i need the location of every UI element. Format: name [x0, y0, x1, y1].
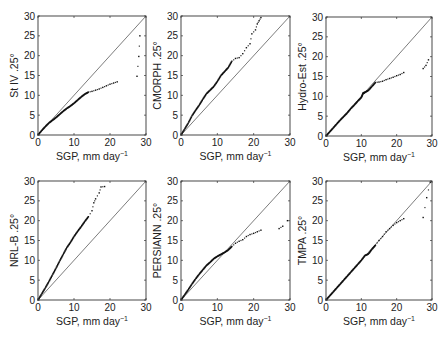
x-axis-label: SGP, mm day−1 — [200, 315, 272, 327]
x-axis-label: SGP, mm day−1 — [56, 150, 128, 162]
x-tick-label: 30 — [284, 137, 296, 148]
one-to-one-line — [181, 181, 290, 300]
one-to-one-line — [181, 16, 290, 135]
y-tick-label: 30 — [167, 176, 179, 187]
x-axis-label: SGP, mm day−1 — [343, 151, 415, 163]
one-to-one-line — [38, 181, 146, 300]
x-tick-label: 0 — [35, 137, 41, 148]
y-tick-label: 20 — [24, 215, 36, 226]
x-tick-label: 30 — [140, 302, 152, 313]
y-tick-label: 30 — [312, 176, 324, 187]
x-axis-label: SGP, mm day−1 — [200, 150, 272, 162]
scatter-points — [180, 220, 288, 301]
scatter-points — [325, 59, 429, 137]
y-tick-label: 5 — [172, 110, 178, 121]
y-tick-label: 25 — [24, 195, 36, 206]
y-tick-label: 15 — [24, 235, 36, 246]
panel-1: 0102030051015202530SGP, mm day−1St IV .2… — [8, 11, 152, 163]
y-axis-label: CMORPH .25° — [151, 41, 163, 109]
panel-5: 0102030051015202530SGP, mm day−1PERSIANN… — [151, 176, 296, 328]
y-tick-label: 10 — [24, 90, 36, 101]
figure-canvas: 0102030051015202530SGP, mm day−1St IV .2… — [0, 0, 447, 338]
x-tick-label: 20 — [391, 138, 403, 149]
y-axis-label: Hydro-Est .25° — [296, 42, 308, 110]
y-tick-label: 25 — [24, 30, 36, 41]
x-tick-label: 10 — [68, 302, 80, 313]
y-tick-label: 15 — [312, 235, 324, 246]
y-tick-label: 10 — [312, 91, 324, 102]
x-tick-label: 30 — [284, 302, 296, 313]
y-tick-label: 15 — [167, 70, 179, 81]
y-tick-label: 0 — [317, 295, 323, 306]
y-tick-label: 30 — [312, 12, 324, 23]
y-tick-label: 20 — [167, 50, 179, 61]
y-tick-label: 10 — [24, 255, 36, 266]
y-tick-label: 20 — [167, 215, 179, 226]
y-tick-label: 0 — [29, 295, 35, 306]
scatter-points — [37, 186, 105, 301]
x-tick-label: 20 — [248, 302, 260, 313]
y-tick-label: 5 — [29, 110, 35, 121]
y-tick-label: 20 — [24, 50, 36, 61]
y-tick-label: 5 — [29, 275, 35, 286]
panel-2: 0102030051015202530SGP, mm day−1CMORPH .… — [151, 11, 296, 163]
x-tick-label: 10 — [356, 302, 368, 313]
y-tick-label: 10 — [167, 90, 179, 101]
y-tick-label: 25 — [312, 195, 324, 206]
y-tick-label: 25 — [167, 195, 179, 206]
scatter-points — [37, 35, 140, 136]
y-tick-label: 20 — [312, 51, 324, 62]
y-axis-label: TMPA .25° — [296, 216, 308, 266]
x-tick-label: 0 — [323, 302, 329, 313]
x-tick-label: 10 — [356, 138, 368, 149]
y-tick-label: 15 — [167, 235, 179, 246]
panel-3: 0102030051015202530SGP, mm day−1Hydro-Es… — [296, 12, 438, 164]
x-tick-label: 20 — [391, 302, 403, 313]
y-tick-label: 0 — [172, 130, 178, 141]
x-tick-label: 30 — [426, 138, 438, 149]
x-tick-label: 20 — [248, 137, 260, 148]
x-tick-label: 0 — [323, 138, 329, 149]
y-tick-label: 0 — [29, 130, 35, 141]
y-tick-label: 5 — [172, 275, 178, 286]
y-tick-label: 30 — [167, 11, 179, 22]
scatter-points — [180, 17, 261, 136]
y-tick-label: 15 — [312, 71, 324, 82]
y-tick-label: 5 — [317, 111, 323, 122]
y-tick-label: 20 — [312, 215, 324, 226]
y-tick-label: 5 — [317, 275, 323, 286]
y-tick-label: 30 — [24, 11, 36, 22]
x-tick-label: 10 — [68, 137, 80, 148]
y-tick-label: 25 — [312, 31, 324, 42]
panel-4: 0102030051015202530SGP, mm day−1NRL-B .2… — [8, 176, 152, 328]
y-tick-label: 25 — [167, 30, 179, 41]
x-tick-label: 0 — [35, 302, 41, 313]
y-tick-label: 30 — [24, 176, 36, 187]
y-tick-label: 10 — [312, 255, 324, 266]
x-tick-label: 20 — [104, 302, 116, 313]
panel-6: 0102030051015202530SGP, mm day−1TMPA .25… — [296, 176, 438, 328]
y-axis-label: NRL-B .25° — [8, 214, 20, 267]
y-axis-label: St IV .25° — [8, 53, 20, 97]
y-tick-label: 15 — [24, 70, 36, 81]
x-tick-label: 0 — [178, 137, 184, 148]
x-tick-label: 30 — [140, 137, 152, 148]
x-tick-label: 0 — [178, 302, 184, 313]
x-axis-label: SGP, mm day−1 — [343, 315, 415, 327]
x-tick-label: 30 — [426, 302, 438, 313]
y-tick-label: 10 — [167, 255, 179, 266]
y-axis-label: PERSIANN .25° — [151, 203, 163, 278]
x-tick-label: 20 — [104, 137, 116, 148]
x-axis-label: SGP, mm day−1 — [56, 315, 128, 327]
x-tick-label: 10 — [212, 137, 224, 148]
x-tick-label: 10 — [212, 302, 224, 313]
one-to-one-line — [38, 16, 146, 135]
y-tick-label: 0 — [172, 295, 178, 306]
y-tick-label: 0 — [317, 131, 323, 142]
